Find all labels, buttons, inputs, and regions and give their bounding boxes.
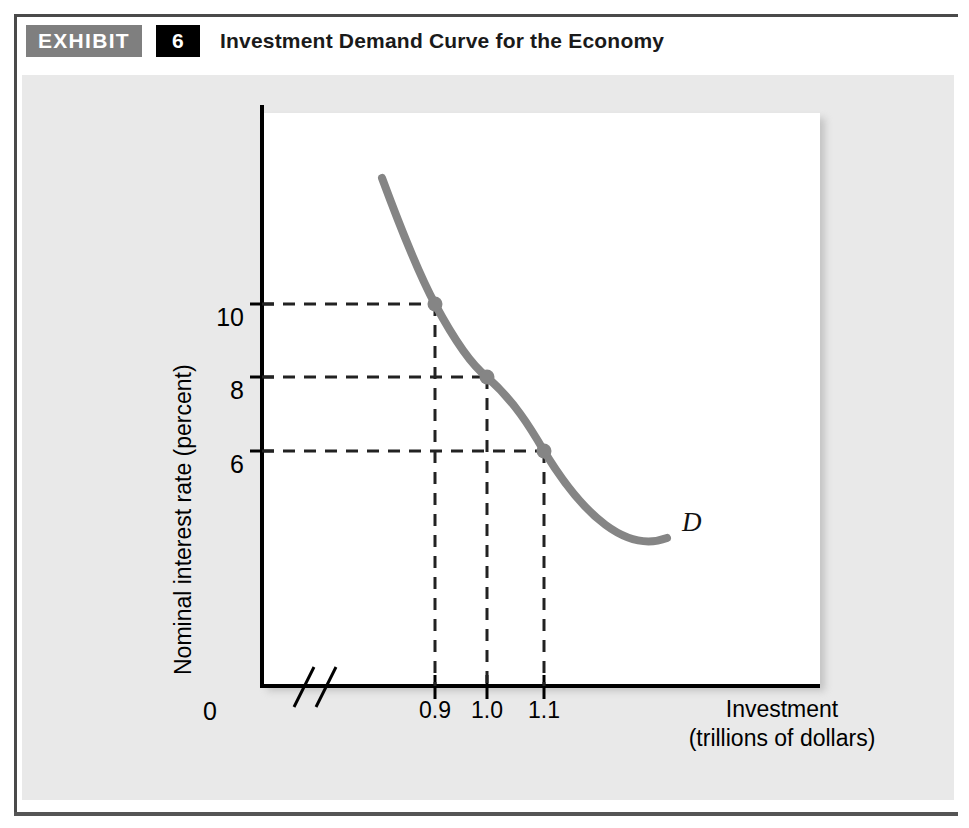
top-divider xyxy=(14,14,958,17)
x-tick-label-11: 1.1 xyxy=(516,697,572,724)
x-axis-title-line2: (trillions of dollars) xyxy=(662,724,902,753)
left-divider xyxy=(14,14,17,814)
exhibit-badge: EXHIBIT xyxy=(26,25,142,57)
bottom-divider xyxy=(14,812,958,816)
data-point-10 xyxy=(480,370,495,385)
y-tick-label-10: 10 xyxy=(198,303,244,332)
y-tick-label-6: 6 xyxy=(198,450,244,479)
x-tick-label-09: 0.9 xyxy=(407,697,463,724)
data-point-11 xyxy=(537,444,552,459)
y-tick-label-8: 8 xyxy=(198,376,244,405)
x-axis-title-line1: Investment xyxy=(662,695,902,724)
x-tick-label-10: 1.0 xyxy=(459,697,515,724)
x-origin-label: 0 xyxy=(182,697,238,726)
y-axis-title: Nominal interest rate (percent) xyxy=(170,364,197,675)
x-axis-title: Investment (trillions of dollars) xyxy=(662,695,902,753)
data-point-09 xyxy=(428,297,443,312)
demand-curve xyxy=(382,178,667,541)
exhibit-figure: EXHIBIT 6 Investment Demand Curve for th… xyxy=(0,0,969,828)
demand-curve-label: D xyxy=(682,507,702,538)
exhibit-header: EXHIBIT 6 Investment Demand Curve for th… xyxy=(26,24,664,58)
chart-graphics xyxy=(22,75,954,800)
exhibit-number-badge: 6 xyxy=(156,25,200,57)
chart-panel: Nominal interest rate (percent) 10 8 6 0… xyxy=(22,75,954,800)
page-title: Investment Demand Curve for the Economy xyxy=(220,29,664,53)
